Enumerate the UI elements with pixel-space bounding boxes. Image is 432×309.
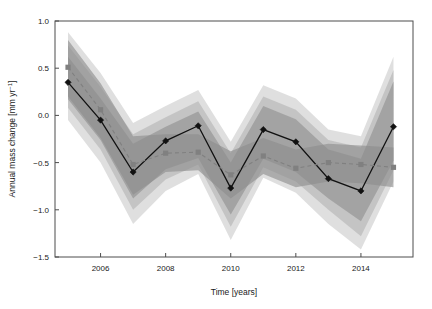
data-point-marker [98, 107, 103, 112]
data-point-marker [391, 165, 396, 170]
data-point-marker [326, 160, 331, 165]
y-tick-label: −1.5 [33, 253, 49, 262]
data-point-marker [228, 172, 233, 177]
x-tick-label: 2012 [287, 264, 305, 273]
x-tick-label: 2006 [92, 264, 110, 273]
y-tick-label: 1.0 [38, 17, 50, 26]
x-tick-label: 2014 [352, 264, 370, 273]
uncertainty-bands [68, 32, 393, 249]
x-axis-ticks: 20062008201020122014 [92, 253, 371, 273]
y-tick-label: 0.5 [38, 64, 50, 73]
y-tick-label: 0.0 [38, 111, 50, 120]
y-axis-label-tail: ] [7, 81, 17, 83]
figure-container: 20062008201020122014 −1.5−1.0−0.50.00.51… [0, 0, 432, 309]
y-tick-label: −0.5 [33, 159, 49, 168]
y-axis-label: Annual mass change [mm yr−1] [7, 81, 17, 198]
data-point-marker [163, 151, 168, 156]
chart-canvas: 20062008201020122014 −1.5−1.0−0.50.00.51… [0, 0, 432, 309]
y-axis-label-main: Annual mass change [mm yr [7, 90, 17, 198]
x-tick-label: 2010 [222, 264, 240, 273]
data-point-marker [293, 166, 298, 171]
data-point-marker [358, 162, 363, 167]
data-point-marker [196, 150, 201, 155]
svg-text:Annual mass change [mm yr−1]: Annual mass change [mm yr−1] [7, 81, 17, 198]
x-tick-label: 2008 [157, 264, 175, 273]
data-point-marker [261, 153, 266, 158]
data-point-marker [131, 162, 136, 167]
data-point-marker [65, 65, 70, 70]
y-tick-label: −1.0 [33, 206, 49, 215]
x-axis-label: Time [years] [211, 287, 257, 297]
